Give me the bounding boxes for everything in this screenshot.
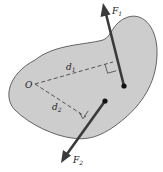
force-f1-arrowhead-icon xyxy=(101,3,111,17)
force-f2-application-point xyxy=(102,98,107,103)
origin-label: O xyxy=(25,80,33,90)
rigid-body-shape xyxy=(9,16,157,139)
force-moment-diagram: O F1 F2 d1 d2 xyxy=(0,0,163,172)
force-f1-label: F1 xyxy=(111,6,122,17)
force-f1-application-point xyxy=(121,83,126,88)
force-f2-label: F2 xyxy=(72,155,83,166)
